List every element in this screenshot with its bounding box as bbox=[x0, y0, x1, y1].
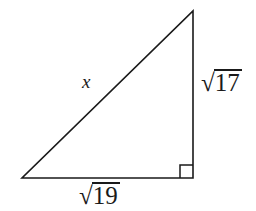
hypotenuse-label: x bbox=[82, 72, 90, 91]
right-triangle-figure: x √17 √19 bbox=[0, 0, 256, 211]
right-angle-marker-icon bbox=[180, 165, 193, 178]
horizontal-leg-label: √19 bbox=[79, 183, 119, 208]
triangle-outline bbox=[22, 11, 193, 178]
radical-sign-icon: √ bbox=[201, 70, 215, 95]
vertical-leg-label: √17 bbox=[201, 70, 241, 95]
radical-sign-icon: √ bbox=[79, 183, 93, 208]
triangle-drawing bbox=[0, 0, 256, 211]
radical-expression: √17 bbox=[201, 70, 241, 95]
hypotenuse-label-text: x bbox=[82, 71, 90, 92]
radicand-value: 19 bbox=[92, 183, 119, 208]
radicand-value: 17 bbox=[214, 70, 241, 95]
radical-expression: √19 bbox=[79, 183, 119, 208]
